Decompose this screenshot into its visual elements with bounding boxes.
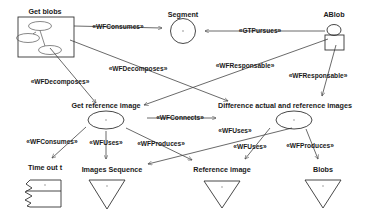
edge-label-wfconsumes-bottom: «WFConsumes» (26, 138, 78, 145)
edge-label-wfuses-getrefimage: «WFUses» (89, 139, 123, 146)
diagram-svg: Get blobs Segment ABlob Get reference im… (0, 0, 365, 219)
node-label-reference-image: Reference image (193, 165, 251, 174)
edge-label-wfconnects: «WFConnects» (156, 114, 204, 121)
edge-wfdecomposes-getblobs-getrefimage (50, 48, 96, 103)
node-reference-image[interactable]: Reference image (193, 165, 251, 208)
node-label-get-blobs: Get blobs (28, 7, 61, 16)
edge-label-wfproduces-difference-blobs: «WFProduces» (286, 142, 334, 149)
node-label-blobs: Blobs (313, 165, 333, 174)
edge-label-wfconsumes-top: «WFConsumes» (92, 23, 144, 30)
edge-wfresponsable-ablob-difference (322, 45, 336, 96)
edge-label-wfproduces-getrefimage: «WFProduces» (137, 140, 185, 147)
node-label-get-reference-image: Get reference image (71, 101, 140, 110)
edge-label-wfresponsable-left: «WFResponsable» (216, 62, 275, 70)
node-label-time-out: Time out t (28, 163, 63, 172)
node-time-out[interactable]: Time out t (25, 163, 63, 207)
edge-label-gtpursues: «GTPursues» (239, 27, 282, 34)
node-label-images-sequence: Images Sequence (82, 165, 143, 174)
node-blobs[interactable]: Blobs (305, 165, 341, 208)
node-images-sequence[interactable]: Images Sequence (82, 165, 143, 209)
node-get-blobs[interactable]: Get blobs (17, 7, 75, 57)
node-label-difference-actual-reference-images: Difference actual and reference images (218, 101, 352, 110)
node-label-ablob: ABlob (323, 10, 345, 19)
edge-label-wfdecomposes-right: «WFDecomposes» (109, 65, 168, 73)
edge-label-wfdecomposes-left: «WFDecomposes» (31, 78, 90, 86)
node-ablob[interactable]: ABlob (323, 10, 345, 50)
node-get-reference-image[interactable]: Get reference image (71, 101, 140, 129)
uml-diagram-canvas: Get blobs Segment ABlob Get reference im… (0, 0, 365, 219)
node-segment[interactable]: Segment (168, 10, 199, 44)
node-difference-actual-reference-images[interactable]: Difference actual and reference images (218, 101, 352, 129)
node-label-segment: Segment (168, 10, 199, 19)
edge-label-wfuses-difference-imagesseq: «WFUses» (218, 127, 252, 134)
edge-label-wfuses-difference-referenceimage: «WFUses» (233, 143, 267, 150)
edge-label-wfresponsable-right: «WFResponsable» (289, 72, 348, 80)
